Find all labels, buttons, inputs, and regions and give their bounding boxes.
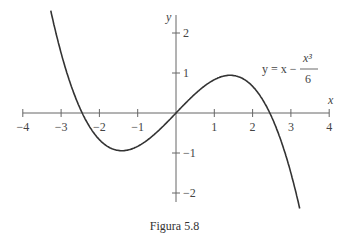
- y-axis-label: y: [165, 10, 172, 24]
- plot-area: −4−3−2−1123421−1−2xy y = x − x³ 6: [0, 0, 349, 239]
- equation-lhs: y = x −: [262, 62, 297, 76]
- x-tick-label: 2: [250, 120, 256, 134]
- equation-denominator: 6: [305, 72, 311, 86]
- equation-numerator: x³: [302, 51, 312, 65]
- equation-annotation: y = x − x³ 6: [262, 51, 318, 86]
- x-tick-label: −1: [131, 120, 144, 134]
- axes: −4−3−2−1123421−1−2xy: [16, 10, 334, 202]
- y-tick-label: −2: [183, 186, 196, 200]
- y-tick-label: 2: [183, 26, 189, 40]
- function-curve: [51, 11, 300, 209]
- figure-caption: Figura 5.8: [0, 219, 349, 234]
- x-tick-label: 4: [326, 120, 332, 134]
- x-axis-label: x: [327, 93, 334, 107]
- x-tick-label: −4: [16, 120, 29, 134]
- x-tick-label: −3: [55, 120, 68, 134]
- x-tick-label: 1: [211, 120, 217, 134]
- x-tick-label: −2: [93, 120, 106, 134]
- y-tick-label: 1: [183, 66, 189, 80]
- y-tick-label: −1: [183, 146, 196, 160]
- x-tick-label: 3: [288, 120, 294, 134]
